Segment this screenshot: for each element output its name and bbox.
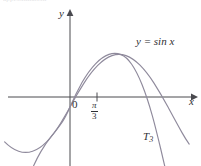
fraction-numerator: π	[91, 101, 98, 110]
fraction-denominator: 3	[91, 112, 98, 121]
taylor-curve-label: T3	[143, 130, 153, 144]
sine-curve-label: y = sin x	[136, 35, 174, 47]
graph-canvas	[0, 0, 201, 166]
y-axis-arrow-icon	[67, 9, 74, 16]
y-axis-label: y	[59, 7, 64, 19]
taylor-polynomial-figure: approximation y x 0 y = sin x T3 π 3	[0, 0, 201, 166]
taylor-label-subscript: 3	[149, 135, 153, 144]
x-tick-label-pi-over-3: π 3	[91, 101, 98, 122]
x-axis-label: x	[189, 95, 194, 107]
origin-label: 0	[72, 98, 78, 110]
